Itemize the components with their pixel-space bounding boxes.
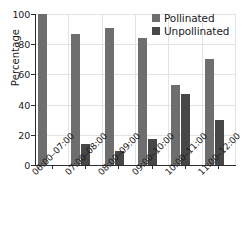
x-tick-mark xyxy=(218,165,219,169)
x-tick-mark xyxy=(185,165,186,169)
y-tick-mark xyxy=(31,44,35,45)
legend-swatch-icon xyxy=(152,27,160,35)
bar-pollinated xyxy=(138,38,147,165)
x-tick-mark xyxy=(118,165,119,169)
y-tick-mark xyxy=(31,135,35,136)
x-tick-mark xyxy=(52,165,53,169)
bar-pollinated xyxy=(205,59,214,165)
legend: Pollinated Unpollinated xyxy=(152,12,229,37)
legend-label: Unpollinated xyxy=(164,25,229,37)
bar-chart: 020406080100 Percentage 06:00–07:0007:00… xyxy=(0,0,245,226)
y-tick-mark xyxy=(31,105,35,106)
y-tick-mark xyxy=(31,14,35,15)
y-tick-mark xyxy=(31,74,35,75)
x-tick-mark xyxy=(85,165,86,169)
y-axis-line xyxy=(35,14,36,166)
bar-pollinated xyxy=(71,34,80,165)
y-tick-label: 20 xyxy=(0,129,35,140)
legend-swatch-icon xyxy=(152,14,160,22)
bar-pollinated xyxy=(38,14,47,165)
legend-item-unpollinated: Unpollinated xyxy=(152,25,229,37)
legend-item-pollinated: Pollinated xyxy=(152,12,229,24)
bar-pollinated xyxy=(105,28,114,165)
legend-label: Pollinated xyxy=(164,12,214,24)
x-tick-mark xyxy=(152,165,153,169)
y-axis-label: Percentage xyxy=(10,8,21,108)
